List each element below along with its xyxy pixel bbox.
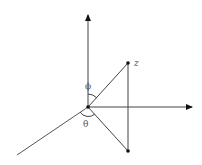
phi-label: ϕ bbox=[85, 81, 91, 91]
theta-label: θ bbox=[83, 119, 88, 129]
depth-axis bbox=[17, 107, 88, 155]
phi-angle-arc bbox=[88, 94, 97, 98]
projection-radius bbox=[88, 107, 128, 151]
radius-vector bbox=[88, 63, 128, 107]
origin-point bbox=[86, 105, 90, 109]
point-z bbox=[126, 61, 130, 65]
projected-point bbox=[126, 149, 130, 153]
point-z-label: z bbox=[133, 58, 139, 68]
spherical-coordinate-diagram: z ϕ θ bbox=[0, 0, 202, 165]
